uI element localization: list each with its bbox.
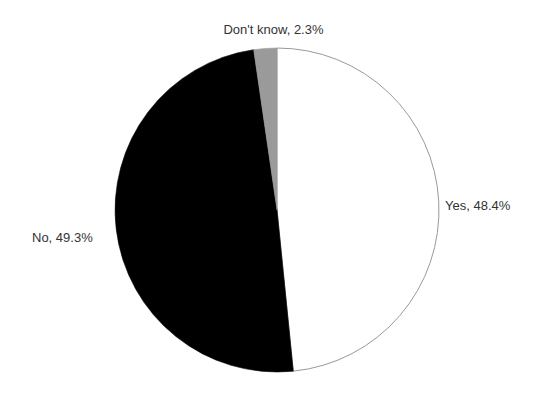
pie-chart-figure: Don't know, 2.3% Yes, 48.4% No, 49.3% <box>0 0 547 406</box>
pie-label-yes: Yes, 48.4% <box>445 198 510 213</box>
pie-label-no: No, 49.3% <box>32 230 93 245</box>
pie-slice-yes[interactable] <box>277 48 439 371</box>
pie-label-dont-know: Don't know, 2.3% <box>0 22 547 37</box>
